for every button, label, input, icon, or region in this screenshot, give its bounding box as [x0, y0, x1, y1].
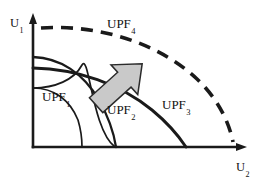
upf4-label: UPF4 — [107, 15, 135, 34]
upf4-label-base: UPF — [107, 16, 131, 31]
upf1-label-subscript: 1 — [66, 99, 70, 109]
upf1-label-base: UPF — [42, 89, 66, 104]
upf2-label: UPF2 — [107, 101, 135, 120]
upf2-label-subscript: 2 — [131, 112, 135, 122]
x-axis-label-base: U — [236, 160, 245, 174]
x-axis-label-subscript: 2 — [246, 170, 250, 179]
upf4-label-subscript: 4 — [131, 26, 135, 36]
x-axis-arrowhead-icon — [236, 143, 247, 151]
y-axis-label-base: U — [10, 16, 19, 30]
upf3-label-subscript: 3 — [186, 107, 190, 117]
upf3-label-base: UPF — [162, 97, 186, 112]
upf3-label: UPF3 — [162, 96, 190, 115]
upf-diagram-figure: U1 U2 UPF1 UPF2 UPF3 UPF4 — [0, 0, 275, 185]
y-axis-label: U1 — [10, 14, 23, 33]
upf1-label: UPF1 — [42, 88, 70, 107]
upf2-label-base: UPF — [107, 102, 131, 117]
y-axis-label-subscript: 1 — [20, 26, 24, 35]
y-axis-arrowhead-icon — [29, 13, 37, 24]
x-axis-label: U2 — [236, 158, 249, 177]
